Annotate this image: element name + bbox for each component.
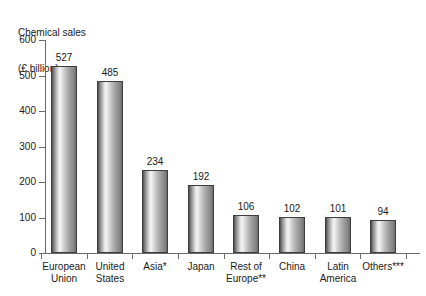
x-axis-line — [45, 253, 420, 254]
category-label-line: States — [74, 273, 146, 285]
category-label: Others*** — [347, 261, 419, 273]
x-axis-tick — [87, 254, 88, 259]
x-axis-tick — [406, 254, 407, 259]
category-label-line: America — [302, 273, 374, 285]
bar — [370, 220, 396, 253]
x-axis-tick — [224, 254, 225, 259]
bar-value-label: 485 — [80, 68, 140, 78]
y-axis-label: 0 — [0, 248, 36, 258]
bar — [142, 170, 168, 253]
bar-value-label: 234 — [125, 157, 185, 167]
y-axis-label: 200 — [0, 177, 36, 187]
bar-value-label: 94 — [353, 207, 413, 217]
y-axis-label: 600 — [0, 35, 36, 45]
bar — [325, 217, 351, 253]
x-axis-tick — [315, 254, 316, 259]
bar-value-label: 192 — [171, 172, 231, 182]
bar — [97, 81, 123, 253]
bar — [233, 215, 259, 253]
y-axis-label: 100 — [0, 213, 36, 223]
bar-value-label: 527 — [34, 53, 94, 63]
bar — [279, 217, 305, 253]
category-label-line: Others*** — [347, 261, 419, 273]
bar — [188, 185, 214, 253]
chart-screenshot: Chemical sales (€ billion) 0100200300400… — [0, 0, 426, 296]
x-axis-tick — [178, 254, 179, 259]
bar — [51, 66, 77, 253]
x-axis-tick — [132, 254, 133, 259]
y-axis-label: 300 — [0, 142, 36, 152]
x-axis-tick — [41, 254, 42, 259]
y-axis-label: 500 — [0, 71, 36, 81]
x-axis-tick — [269, 254, 270, 259]
x-axis-tick — [360, 254, 361, 259]
category-label-line: Europe** — [210, 273, 282, 285]
y-axis-label: 400 — [0, 106, 36, 116]
